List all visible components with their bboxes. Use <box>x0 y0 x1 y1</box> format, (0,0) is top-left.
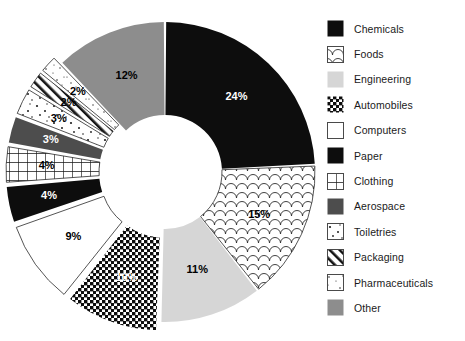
legend-item-label: Aerospace <box>354 200 405 212</box>
legend-item[interactable]: Engineering <box>327 67 465 92</box>
legend-item-label: Pharmaceuticals <box>354 277 433 289</box>
donut-chart-svg: 24%15%11%10%9%4%4%3%3%2%2%12% <box>0 0 320 341</box>
legend-item-label: Foods <box>354 48 384 60</box>
legend-item[interactable]: Chemicals <box>327 16 465 41</box>
legend-swatch-icon <box>327 173 344 190</box>
legend-item-label: Computers <box>354 124 406 136</box>
legend-item[interactable]: Toiletries <box>327 219 465 244</box>
legend-swatch-icon <box>327 46 344 63</box>
slice-data-label: 4% <box>39 159 55 171</box>
legend-item[interactable]: Other <box>327 295 465 320</box>
legend-swatch-icon <box>327 20 344 37</box>
legend-swatch-icon <box>327 249 344 266</box>
legend-swatch-icon <box>327 223 344 240</box>
slice-data-label: 4% <box>41 189 57 201</box>
slice-data-label: 3% <box>43 133 59 145</box>
legend-item[interactable]: Packaging <box>327 245 465 270</box>
slice-data-label: 10% <box>116 271 138 283</box>
legend-item-label: Chemicals <box>354 23 404 35</box>
legend-item-label: Toiletries <box>354 226 396 238</box>
legend-item[interactable]: Automobiles <box>327 92 465 117</box>
chart-legend: ChemicalsFoodsEngineeringAutomobilesComp… <box>327 16 465 321</box>
slice-data-label: 2% <box>61 96 77 108</box>
legend-item-label: Packaging <box>354 251 404 263</box>
legend-item[interactable]: Pharmaceuticals <box>327 270 465 295</box>
legend-swatch-icon <box>327 198 344 215</box>
slice-data-label: 3% <box>51 112 67 124</box>
donut-slices <box>6 22 315 330</box>
legend-swatch-icon <box>327 122 344 139</box>
legend-swatch-icon <box>327 299 344 316</box>
legend-item-label: Engineering <box>354 73 411 85</box>
legend-item[interactable]: Foods <box>327 41 465 66</box>
legend-item[interactable]: Computers <box>327 118 465 143</box>
legend-item-label: Other <box>354 302 381 314</box>
legend-item-label: Clothing <box>354 175 393 187</box>
legend-item-label: Automobiles <box>354 99 413 111</box>
legend-swatch-icon <box>327 147 344 164</box>
slice-data-label: 24% <box>225 90 247 102</box>
legend-item[interactable]: Clothing <box>327 168 465 193</box>
slice-data-label: 12% <box>116 69 138 81</box>
legend-item[interactable]: Paper <box>327 143 465 168</box>
slice-data-label: 11% <box>187 263 209 275</box>
slice-data-label: 9% <box>65 230 81 242</box>
legend-swatch-icon <box>327 96 344 113</box>
legend-swatch-icon <box>327 274 344 291</box>
donut-chart: 24%15%11%10%9%4%4%3%3%2%2%12% <box>0 0 320 341</box>
legend-swatch-icon <box>327 71 344 88</box>
slice-data-label: 15% <box>248 208 270 220</box>
legend-item[interactable]: Aerospace <box>327 194 465 219</box>
legend-item-label: Paper <box>354 150 383 162</box>
slice-data-label: 2% <box>70 85 86 97</box>
